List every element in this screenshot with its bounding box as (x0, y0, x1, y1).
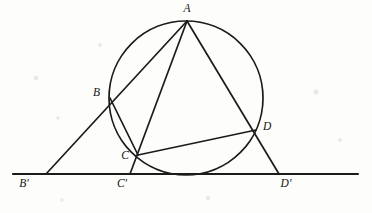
circumscribed-circle (109, 21, 263, 175)
point-label-C: C (121, 149, 129, 161)
point-label-B: B (93, 86, 100, 98)
point-label-Cp: C' (117, 177, 128, 189)
point-label-A: A (182, 2, 191, 14)
geometry-diagram: ABCDB'C'D' Figure 2.1 (0, 0, 372, 213)
ray-A-B-Bprime (46, 21, 187, 174)
chord-C-D (138, 130, 256, 155)
point-label-Dp: D' (280, 177, 292, 189)
ray-A-D-Dprime (187, 21, 279, 174)
paper-texture (34, 43, 342, 202)
point-label-D: D (262, 120, 272, 132)
point-label-Bp: B' (19, 177, 29, 189)
point-label-layer: ABCDB'C'D' (19, 2, 292, 189)
figure-container: ABCDB'C'D' Figure 2.1 (0, 0, 372, 213)
